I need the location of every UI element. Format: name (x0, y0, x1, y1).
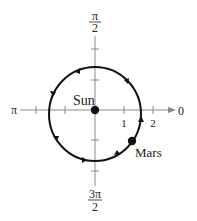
tick-label-1: 1 (121, 117, 127, 129)
angle-bottom-denominator: 2 (92, 200, 98, 214)
direction-arrow-icon (50, 91, 56, 97)
mars-label: Mars (135, 145, 162, 160)
tick-label-2: 2 (150, 117, 156, 129)
polar-orbit-diagram: Sun Mars π 2 3π 2 π 0 1 2 (0, 0, 197, 221)
direction-arrow-icon (138, 116, 144, 122)
angle-top-denominator: 2 (92, 21, 98, 35)
sun-label: Sun (73, 93, 95, 108)
axis-arrowhead-icon (168, 107, 176, 113)
angle-right-label: 0 (178, 104, 184, 118)
angle-left-label: π (11, 103, 17, 117)
direction-arrow-icon (82, 157, 87, 163)
angle-bottom-numerator: 3π (89, 187, 101, 201)
mars-marker (128, 137, 136, 145)
